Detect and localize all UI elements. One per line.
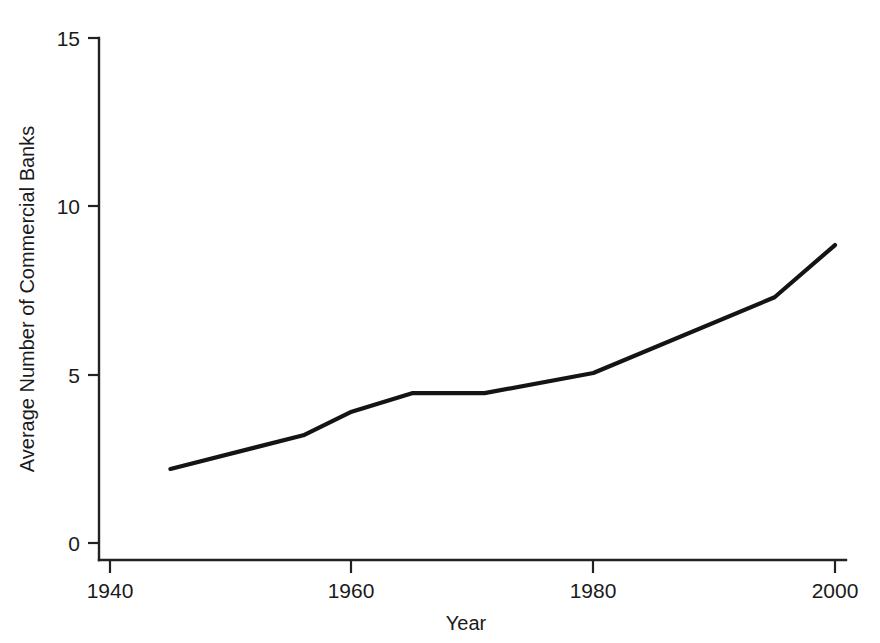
x-axis-title: Year	[446, 612, 487, 634]
x-tick-label-1960: 1960	[328, 579, 375, 602]
chart-figure: 15 10 5 0 1940 1960 1980 2000 Year Avera…	[0, 0, 880, 643]
y-tick-label-10: 10	[57, 195, 80, 218]
x-tick-label-1980: 1980	[570, 579, 617, 602]
x-tick-label-2000: 2000	[812, 579, 859, 602]
y-tick-label-5: 5	[68, 364, 80, 387]
x-tick-label-1940: 1940	[87, 579, 134, 602]
series-line-commercial-banks	[170, 245, 835, 469]
line-chart: 15 10 5 0 1940 1960 1980 2000 Year Avera…	[0, 0, 880, 643]
y-tick-label-0: 0	[68, 532, 80, 555]
y-axis-title: Average Number of Commercial Banks	[16, 126, 38, 472]
y-tick-label-15: 15	[57, 27, 80, 50]
